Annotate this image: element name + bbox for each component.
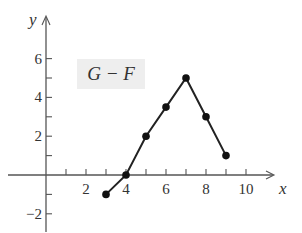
y-tick-label: 4 (35, 89, 43, 105)
y-axis-label: y (27, 10, 37, 29)
x-tick-label: 8 (202, 181, 210, 197)
data-point (122, 171, 130, 179)
chart-canvas: 246810642−2xy (0, 0, 302, 233)
data-point (102, 191, 110, 199)
y-tick-label: 6 (35, 51, 43, 67)
data-point (162, 103, 170, 111)
y-tick-label: 2 (35, 128, 43, 144)
data-point (182, 74, 190, 82)
y-tick-label: −2 (26, 206, 42, 222)
x-tick-label: 4 (122, 181, 130, 197)
x-tick-label: 6 (162, 181, 170, 197)
data-point (142, 132, 150, 140)
x-tick-label: 2 (82, 181, 90, 197)
data-point (222, 152, 230, 160)
x-axis-label: x (278, 179, 287, 198)
data-point (202, 113, 210, 121)
legend-label: G − F (77, 59, 145, 89)
x-tick-label: 10 (239, 181, 254, 197)
